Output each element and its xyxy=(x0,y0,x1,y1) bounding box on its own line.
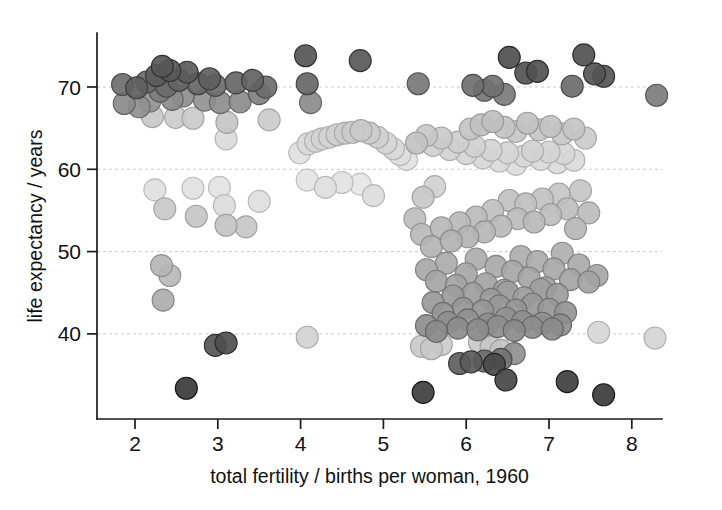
data-point xyxy=(362,185,384,207)
data-point xyxy=(425,320,447,342)
data-point xyxy=(593,384,615,406)
data-point xyxy=(215,214,237,236)
data-point xyxy=(216,111,238,133)
data-point xyxy=(248,190,270,212)
x-tick-label-3: 3 xyxy=(212,432,224,455)
x-tick-label-4: 4 xyxy=(295,432,307,455)
y-tick-label-60: 60 xyxy=(58,158,81,181)
data-point xyxy=(258,109,280,131)
scatter-plot-canvas: 405060702345678total fertility / births … xyxy=(0,0,722,510)
data-point xyxy=(460,351,482,373)
data-point xyxy=(516,112,538,134)
data-point xyxy=(350,120,372,142)
data-point xyxy=(462,74,484,96)
data-point xyxy=(521,140,543,162)
data-point xyxy=(151,255,173,277)
y-tick-label-50: 50 xyxy=(58,240,81,263)
data-point xyxy=(199,68,221,90)
x-axis-title: total fertility / births per woman, 1960 xyxy=(210,465,529,487)
y-tick-label-40: 40 xyxy=(58,322,81,345)
data-point xyxy=(498,46,520,68)
data-point xyxy=(182,177,204,199)
data-point xyxy=(563,118,585,140)
scatter-plot-figure: 405060702345678total fertility / births … xyxy=(0,0,722,510)
data-point xyxy=(154,198,176,220)
data-point xyxy=(412,381,434,403)
data-point xyxy=(526,60,548,82)
y-axis-title: life expectancy / years xyxy=(24,129,46,322)
x-tick-label-7: 7 xyxy=(543,432,555,455)
data-point xyxy=(482,75,504,97)
data-point xyxy=(314,176,336,198)
data-point xyxy=(242,69,264,91)
data-point xyxy=(295,45,317,67)
data-point xyxy=(349,50,371,72)
data-point xyxy=(578,271,600,293)
data-point xyxy=(565,218,587,240)
data-point xyxy=(467,319,489,341)
data-point xyxy=(213,195,235,217)
x-tick-label-6: 6 xyxy=(460,432,472,455)
data-point xyxy=(584,63,606,85)
data-point xyxy=(151,55,173,77)
data-point xyxy=(406,132,428,154)
y-tick-label-70: 70 xyxy=(58,76,81,99)
data-point xyxy=(152,289,174,311)
data-point xyxy=(185,205,207,227)
x-tick-label-5: 5 xyxy=(378,432,390,455)
data-point xyxy=(407,73,429,95)
data-point xyxy=(646,84,668,106)
data-point xyxy=(540,116,562,138)
data-point xyxy=(175,377,197,399)
data-point xyxy=(235,216,257,238)
data-point xyxy=(296,73,318,95)
data-point xyxy=(556,371,578,393)
data-point xyxy=(523,211,545,233)
data-point xyxy=(569,180,591,202)
data-point xyxy=(296,326,318,348)
data-point xyxy=(412,186,434,208)
data-point xyxy=(573,44,595,66)
data-point xyxy=(561,75,583,97)
x-tick-label-8: 8 xyxy=(626,432,638,455)
data-point xyxy=(541,318,563,340)
x-tick-label-2: 2 xyxy=(129,432,141,455)
data-point xyxy=(126,77,148,99)
data-point xyxy=(215,332,237,354)
data-point xyxy=(644,327,666,349)
data-point xyxy=(503,320,525,342)
data-point xyxy=(300,92,322,114)
data-point xyxy=(482,111,504,133)
data-point xyxy=(495,369,517,391)
data-point xyxy=(440,230,462,252)
data-point xyxy=(447,317,469,339)
data-point xyxy=(588,321,610,343)
